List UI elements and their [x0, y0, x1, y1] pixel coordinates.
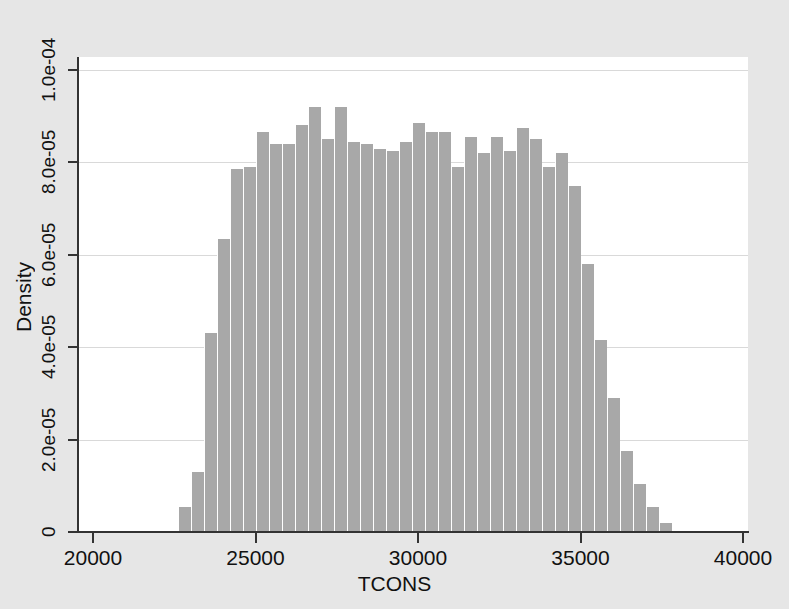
histogram-bar: [399, 142, 412, 532]
x-axis-tick-label: 35000: [551, 546, 609, 570]
chart-screenshot: 02.0e-054.0e-056.0e-058.0e-051.0e-04 200…: [0, 0, 789, 609]
y-axis-tick: [68, 531, 78, 533]
x-axis-tick: [92, 533, 94, 543]
y-axis-tick: [68, 161, 78, 163]
y-axis-tick-label: 1.0e-04: [38, 10, 60, 130]
histogram-bar: [386, 151, 399, 532]
histogram-bar: [477, 153, 490, 532]
x-axis-tick-label: 30000: [389, 546, 447, 570]
histogram-bar: [438, 132, 451, 532]
histogram-bar: [282, 144, 295, 532]
histogram-bar: [490, 137, 503, 532]
histogram-bar: [204, 333, 217, 532]
y-axis-line: [77, 57, 79, 533]
x-axis-tick: [255, 533, 257, 543]
histogram-bar: [243, 167, 256, 532]
x-axis-tick-label: 25000: [226, 546, 284, 570]
x-axis-tick-label: 20000: [64, 546, 122, 570]
histogram-bar: [295, 125, 308, 532]
histogram-bar: [347, 142, 360, 532]
y-axis-tick: [68, 439, 78, 441]
histogram-figure: 02.0e-054.0e-056.0e-058.0e-051.0e-04 200…: [0, 0, 789, 609]
histogram-bar: [516, 128, 529, 532]
x-axis-tick: [742, 533, 744, 543]
histogram-bar: [373, 149, 386, 532]
histogram-bar: [594, 340, 607, 532]
histogram-bar: [360, 144, 373, 532]
histogram-bar: [321, 139, 334, 532]
x-axis-line: [77, 531, 749, 533]
histogram-bar: [464, 137, 477, 532]
histogram-bar: [633, 484, 646, 533]
plot-area: [78, 57, 748, 532]
histogram-bar: [581, 264, 594, 532]
histogram-bar: [542, 167, 555, 532]
histogram-bar: [451, 167, 464, 532]
histogram-bar: [230, 169, 243, 532]
histogram-bar: [555, 153, 568, 532]
histogram-bar: [412, 123, 425, 532]
histogram-bar: [607, 398, 620, 532]
histogram-bar: [217, 239, 230, 532]
histogram-bar: [503, 151, 516, 532]
histogram-bar: [425, 132, 438, 532]
histogram-bar: [568, 186, 581, 533]
y-axis-tick: [68, 254, 78, 256]
histogram-bar: [308, 107, 321, 532]
histogram-bar: [646, 507, 659, 532]
gridline: [78, 70, 748, 71]
histogram-bar: [256, 132, 269, 532]
histogram-bar: [269, 144, 282, 532]
y-axis-title: Density: [12, 262, 36, 332]
x-axis-tick: [417, 533, 419, 543]
histogram-bar: [191, 472, 204, 532]
x-axis-title: TCONS: [0, 572, 789, 596]
x-axis-tick: [580, 533, 582, 543]
y-axis-tick: [68, 69, 78, 71]
x-axis-tick-label: 40000: [714, 546, 772, 570]
histogram-bar: [529, 139, 542, 532]
histogram-bar: [178, 507, 191, 532]
histogram-bar: [334, 107, 347, 532]
histogram-bar: [620, 451, 633, 532]
y-axis-tick: [68, 346, 78, 348]
